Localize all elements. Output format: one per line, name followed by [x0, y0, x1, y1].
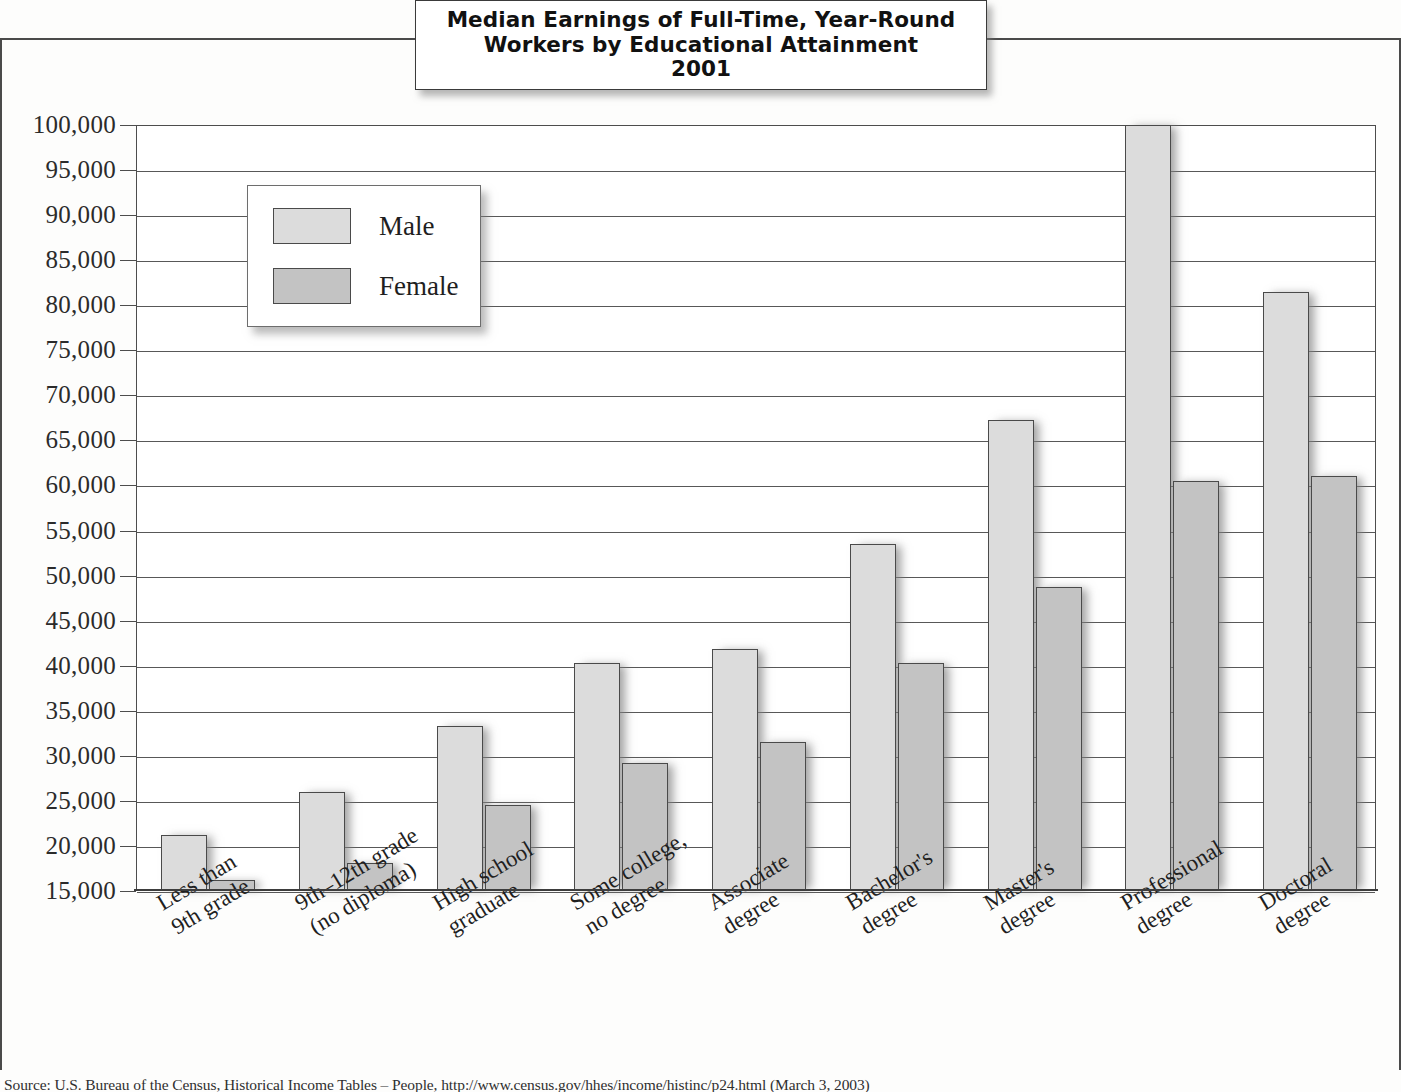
- y-axis-tick-mark: [120, 125, 136, 126]
- y-axis-tick-label: 75,000: [45, 336, 116, 364]
- y-axis-tick-label: 100,000: [33, 111, 116, 139]
- y-axis-tick-mark: [120, 350, 136, 351]
- bar-group: [688, 126, 826, 891]
- bar-group: [550, 126, 688, 891]
- bar-female: [1311, 476, 1357, 891]
- bar-male: [712, 649, 758, 891]
- y-axis-tick-label: 55,000: [45, 517, 116, 545]
- legend-item-female: Female: [273, 268, 458, 304]
- bar-group: [1239, 126, 1377, 891]
- y-axis-tick-label: 60,000: [45, 471, 116, 499]
- bar-male: [1263, 292, 1309, 891]
- y-axis-tick-label: 65,000: [45, 426, 116, 454]
- chart-title-line-1: Median Earnings of Full-Time, Year-Round: [447, 7, 956, 32]
- bar-male: [574, 663, 620, 891]
- y-axis-tick-mark: [120, 440, 136, 441]
- chart-title-line-2: Workers by Educational Attainment: [484, 32, 918, 57]
- y-axis-labels: 100,00095,00090,00085,00080,00075,00070,…: [0, 125, 130, 891]
- legend-label-male: Male: [379, 211, 434, 242]
- y-axis-tick-mark: [120, 801, 136, 802]
- y-axis-tick-label: 30,000: [45, 742, 116, 770]
- y-axis-tick-mark: [120, 576, 136, 577]
- chart-title-year: 2001: [671, 56, 731, 81]
- y-axis-ticks: [120, 125, 138, 891]
- y-axis-tick-mark: [120, 170, 136, 171]
- y-axis-tick-mark: [120, 305, 136, 306]
- x-axis-line: [134, 889, 1378, 891]
- y-axis-tick-label: 70,000: [45, 381, 116, 409]
- source-note: Source: U.S. Bureau of the Census, Histo…: [4, 1076, 1401, 1092]
- y-axis-tick-label: 95,000: [45, 156, 116, 184]
- y-axis-tick-mark: [120, 846, 136, 847]
- bar-male: [988, 420, 1034, 891]
- y-axis-tick-mark: [120, 666, 136, 667]
- y-axis-tick-label: 45,000: [45, 607, 116, 635]
- legend-label-female: Female: [379, 271, 458, 302]
- y-axis-tick-label: 35,000: [45, 697, 116, 725]
- chart-legend: Male Female: [247, 185, 481, 327]
- bar-male: [850, 544, 896, 891]
- y-axis-tick-mark: [120, 485, 136, 486]
- y-axis-tick-label: 20,000: [45, 832, 116, 860]
- y-axis-tick-label: 80,000: [45, 291, 116, 319]
- y-axis-tick-label: 40,000: [45, 652, 116, 680]
- y-axis-tick-label: 85,000: [45, 246, 116, 274]
- y-axis-tick-label: 25,000: [45, 787, 116, 815]
- y-axis-tick-mark: [120, 395, 136, 396]
- x-axis-labels: Less than9th grade9th–12th grade(no dipl…: [0, 893, 1401, 1058]
- y-axis-tick-mark: [120, 756, 136, 757]
- bar-female: [1036, 587, 1082, 891]
- y-axis-tick-label: 90,000: [45, 201, 116, 229]
- y-axis-tick-label: 50,000: [45, 562, 116, 590]
- y-axis-tick-mark: [120, 711, 136, 712]
- bar-female: [1173, 481, 1219, 891]
- y-axis-tick-mark: [120, 531, 136, 532]
- bar-group: [826, 126, 964, 891]
- legend-swatch-male: [273, 208, 351, 244]
- y-axis-tick-mark: [120, 621, 136, 622]
- bar-group: [1101, 126, 1239, 891]
- bar-group: [964, 126, 1102, 891]
- bar-male: [1125, 125, 1171, 891]
- y-axis-tick-mark: [120, 215, 136, 216]
- y-axis-tick-mark: [120, 891, 136, 892]
- legend-item-male: Male: [273, 208, 434, 244]
- y-axis-tick-mark: [120, 260, 136, 261]
- chart-title-card: Median Earnings of Full-Time, Year-Round…: [415, 0, 987, 90]
- legend-swatch-female: [273, 268, 351, 304]
